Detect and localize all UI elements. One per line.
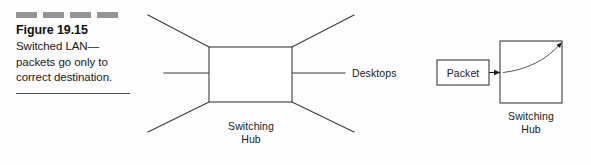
- right-hub-label-line2: Hub: [490, 123, 572, 136]
- packet-label: Packet: [437, 60, 489, 85]
- right-hub-label: Switching Hub: [490, 110, 572, 136]
- right-packet-routing-diagram: [0, 0, 591, 165]
- figure-page: Figure 19.15 Switched LAN— packets go on…: [0, 0, 591, 165]
- right-hub-label-line1: Switching: [490, 110, 572, 123]
